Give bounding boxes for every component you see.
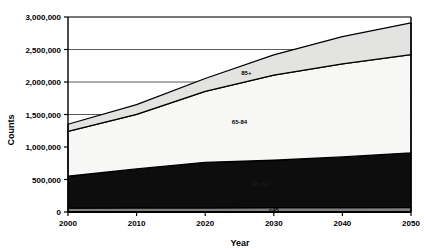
y-tick-label: 500,000: [32, 176, 61, 185]
y-axis-title: Counts: [6, 115, 16, 146]
stacked-area-chart: 0500,0001,000,0001,500,0002,000,0002,500…: [0, 0, 424, 251]
y-tick-label: 0: [57, 208, 62, 217]
x-axis-ticks: 200020102020203020402050: [59, 212, 420, 228]
y-tick-label: 2,500,000: [25, 46, 61, 55]
series-label--45: <45: [269, 207, 280, 213]
x-tick-label: 2050: [402, 219, 420, 228]
x-tick-label: 2000: [59, 219, 77, 228]
x-axis-title: Year: [230, 238, 250, 248]
x-tick-label: 2040: [334, 219, 352, 228]
x-tick-label: 2020: [196, 219, 214, 228]
y-axis-ticks: 0500,0001,000,0001,500,0002,000,0002,500…: [25, 13, 68, 217]
x-tick-label: 2010: [128, 219, 146, 228]
series-label-45-64: 45-64: [252, 181, 268, 187]
y-tick-label: 2,000,000: [25, 78, 61, 87]
series-label-65-84: 65-84: [232, 119, 248, 125]
y-tick-label: 3,000,000: [25, 13, 61, 22]
y-tick-label: 1,500,000: [25, 111, 61, 120]
x-tick-label: 2030: [265, 219, 283, 228]
chart-canvas: 0500,0001,000,0001,500,0002,000,0002,500…: [0, 0, 424, 251]
y-tick-label: 1,000,000: [25, 143, 61, 152]
area-series-group: [68, 23, 411, 212]
series-label-85-: 85+: [241, 70, 252, 76]
